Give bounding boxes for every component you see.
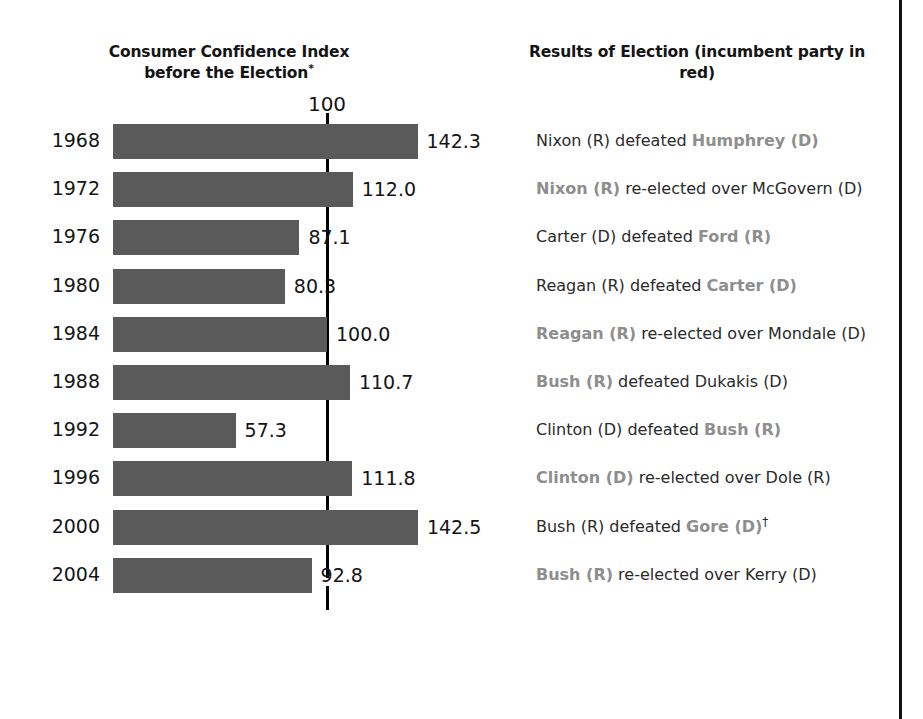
year-label: 1968	[18, 129, 100, 151]
incumbent-candidate-label: Ford (R)	[698, 227, 771, 246]
bar	[113, 220, 299, 255]
incumbent-candidate-label: Bush (R)	[536, 372, 613, 391]
incumbent-candidate-label: Bush (R)	[536, 565, 613, 584]
asterisk-footnote-marker: *	[308, 62, 314, 75]
left-column-header: Consumer Confidence Index before the Ele…	[104, 42, 354, 84]
bar	[113, 558, 312, 593]
result-text-suffix: re-elected over Kerry (D)	[613, 565, 817, 584]
result-text-prefix: Reagan (R) defeated	[536, 276, 707, 295]
table-row: 2000142.5Bush (R) defeated Gore (D)†	[0, 504, 923, 552]
election-result-text: Nixon (R) re-elected over McGovern (D)	[536, 179, 896, 198]
table-row: 198080.3Reagan (R) defeated Carter (D)	[0, 263, 923, 311]
result-text-suffix: re-elected over Mondale (D)	[636, 324, 866, 343]
dagger-footnote-marker: †	[762, 514, 768, 528]
result-text-prefix: Carter (D) defeated	[536, 227, 698, 246]
year-label: 1996	[18, 466, 100, 488]
result-text-suffix: re-elected over McGovern (D)	[620, 179, 862, 198]
bar-value-label: 57.3	[245, 419, 287, 441]
table-row: 1972112.0Nixon (R) re-elected over McGov…	[0, 166, 923, 214]
year-label: 1984	[18, 322, 100, 344]
result-text-prefix: Clinton (D) defeated	[536, 420, 704, 439]
election-result-text: Reagan (R) re-elected over Mondale (D)	[536, 324, 896, 343]
year-label: 1980	[18, 274, 100, 296]
election-result-text: Bush (R) defeated Dukakis (D)	[536, 372, 896, 391]
bar	[113, 317, 327, 352]
year-label: 1972	[18, 177, 100, 199]
incumbent-candidate-label: Reagan (R)	[536, 324, 636, 343]
result-text-prefix: Nixon (R) defeated	[536, 131, 692, 150]
bar-value-label: 92.8	[321, 564, 363, 586]
year-label: 1988	[18, 370, 100, 392]
result-text-suffix: re-elected over Dole (R)	[634, 468, 831, 487]
bar-value-label: 112.0	[362, 178, 416, 200]
bar	[113, 365, 350, 400]
election-result-text: Carter (D) defeated Ford (R)	[536, 227, 896, 246]
election-result-text: Clinton (D) re-elected over Dole (R)	[536, 468, 896, 487]
right-column-header: Results of Election (incumbent party in …	[512, 42, 882, 84]
incumbent-candidate-label: Humphrey (D)	[692, 131, 819, 150]
table-row: 1984100.0Reagan (R) re-elected over Mond…	[0, 311, 923, 359]
incumbent-candidate-label: Gore (D)	[686, 517, 762, 536]
bar	[113, 269, 285, 304]
election-result-text: Bush (R) defeated Gore (D)†	[536, 517, 896, 536]
year-label: 2004	[18, 563, 100, 585]
bar	[113, 124, 418, 159]
election-result-text: Reagan (R) defeated Carter (D)	[536, 276, 896, 295]
result-text-suffix: defeated Dukakis (D)	[613, 372, 788, 391]
bar	[113, 510, 418, 545]
table-row: 197687.1Carter (D) defeated Ford (R)	[0, 214, 923, 262]
bar-value-label: 80.3	[294, 275, 336, 297]
bar	[113, 461, 352, 496]
table-row: 1968142.3Nixon (R) defeated Humphrey (D)	[0, 118, 923, 166]
election-result-text: Nixon (R) defeated Humphrey (D)	[536, 131, 896, 150]
bar-value-label: 87.1	[308, 226, 350, 248]
table-row: 200492.8Bush (R) re-elected over Kerry (…	[0, 552, 923, 600]
year-label: 2000	[18, 515, 100, 537]
year-label: 1976	[18, 225, 100, 247]
result-text-prefix: Bush (R) defeated	[536, 517, 686, 536]
table-row: 1996111.8Clinton (D) re-elected over Dol…	[0, 455, 923, 503]
election-result-text: Bush (R) re-elected over Kerry (D)	[536, 565, 896, 584]
figure-canvas: Consumer Confidence Index before the Ele…	[0, 0, 923, 719]
election-result-text: Clinton (D) defeated Bush (R)	[536, 420, 896, 439]
incumbent-candidate-label: Carter (D)	[707, 276, 797, 295]
bar-value-label: 142.3	[427, 130, 481, 152]
incumbent-candidate-label: Nixon (R)	[536, 179, 620, 198]
table-row: 1988110.7Bush (R) defeated Dukakis (D)	[0, 359, 923, 407]
incumbent-candidate-label: Clinton (D)	[536, 468, 634, 487]
bar-value-label: 110.7	[359, 371, 413, 393]
bar-value-label: 142.5	[427, 516, 481, 538]
bar-value-label: 111.8	[361, 467, 415, 489]
table-row: 199257.3Clinton (D) defeated Bush (R)	[0, 407, 923, 455]
bar-value-label: 100.0	[336, 323, 390, 345]
bar	[113, 172, 353, 207]
year-label: 1992	[18, 418, 100, 440]
incumbent-candidate-label: Bush (R)	[704, 420, 781, 439]
bar	[113, 413, 236, 448]
